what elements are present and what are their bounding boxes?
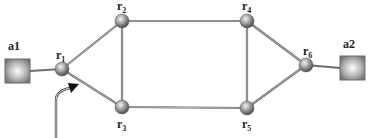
router-r2-icon — [115, 14, 129, 28]
router-r1-subscript: 1 — [61, 55, 65, 64]
router-r4-icon — [240, 14, 254, 28]
host-a2-icon — [340, 56, 365, 80]
svg-text:r2: r2 — [117, 0, 126, 15]
host-a1-label: a1 — [8, 39, 20, 53]
router-r3: r3 — [115, 100, 129, 133]
router-r6-subscript: 6 — [308, 51, 312, 60]
router-r4: r4 — [240, 0, 254, 28]
router-r6: r6 — [299, 44, 313, 72]
router-r6-icon — [299, 58, 313, 72]
router-r1: r1 — [55, 48, 69, 76]
router-r5-subscript: 5 — [247, 124, 251, 133]
svg-text:r1: r1 — [56, 48, 65, 64]
links — [30, 21, 340, 108]
host-a1: a1 — [5, 39, 30, 83]
router-r2-subscript: 2 — [122, 6, 126, 15]
router-r1-icon — [55, 62, 69, 76]
router-r5-icon — [240, 101, 254, 115]
host-a2-label: a2 — [343, 37, 355, 51]
router-r5: r5 — [240, 101, 254, 133]
network-diagram: a1 a2 r1 r2 r3 r4 r5 r6 — [0, 0, 369, 138]
router-r2: r2 — [115, 0, 129, 28]
incoming-arrow-icon — [56, 83, 79, 138]
router-r3-subscript: 3 — [122, 124, 126, 133]
svg-text:r6: r6 — [303, 44, 312, 60]
host-a2: a2 — [340, 37, 365, 80]
router-r3-icon — [115, 100, 129, 114]
svg-text:r3: r3 — [117, 117, 126, 133]
svg-text:r4: r4 — [242, 0, 251, 15]
host-a1-icon — [5, 59, 30, 83]
router-r4-subscript: 4 — [247, 6, 251, 15]
svg-text:r5: r5 — [242, 117, 251, 133]
